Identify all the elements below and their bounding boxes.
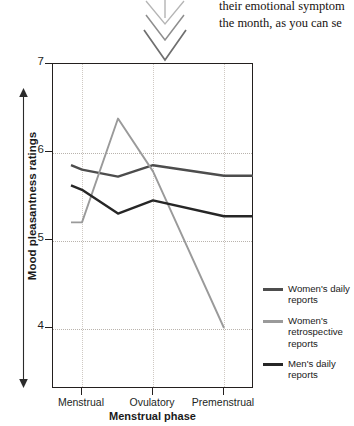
y-tick-label: 7 xyxy=(30,55,44,67)
legend-item: Men's daily reports xyxy=(263,358,354,381)
legend-color-swatch xyxy=(263,320,283,323)
body-text-fragment: their emotional symptom the month, as yo… xyxy=(219,0,354,32)
legend-label: Men's daily reports xyxy=(288,358,354,381)
y-tick-mark xyxy=(45,239,52,240)
y-tick-mark xyxy=(45,151,52,152)
x-axis-title: Menstrual phase xyxy=(52,410,253,422)
y-tick-mark xyxy=(45,327,52,328)
double-chevron-down-icon xyxy=(130,0,200,64)
x-tick-mark xyxy=(223,388,224,395)
chart-legend: Women's daily reportsWomen's retrospecti… xyxy=(263,283,354,390)
legend-item: Women's retrospective reports xyxy=(263,315,354,349)
body-text-line-2: the month, as you can se xyxy=(219,15,354,32)
legend-item: Women's daily reports xyxy=(263,283,354,306)
y-tick-label: 5 xyxy=(30,231,44,243)
x-tick-mark xyxy=(81,388,82,395)
plot-area xyxy=(52,63,253,388)
legend-label: Women's retrospective reports xyxy=(288,315,354,349)
y-tick-label: 4 xyxy=(30,319,44,331)
x-tick-label: Premenstrual xyxy=(181,396,265,408)
chart-page: their emotional symptom the month, as yo… xyxy=(0,0,354,426)
series-line xyxy=(71,119,224,328)
y-tick-mark xyxy=(45,63,52,64)
body-text-line-1: their emotional symptom xyxy=(219,0,354,15)
legend-color-swatch xyxy=(263,288,283,291)
x-tick-mark xyxy=(152,388,153,395)
series-lines xyxy=(52,63,253,388)
y-tick-label: 6 xyxy=(30,143,44,155)
legend-color-swatch xyxy=(263,363,283,366)
legend-label: Women's daily reports xyxy=(288,283,354,306)
